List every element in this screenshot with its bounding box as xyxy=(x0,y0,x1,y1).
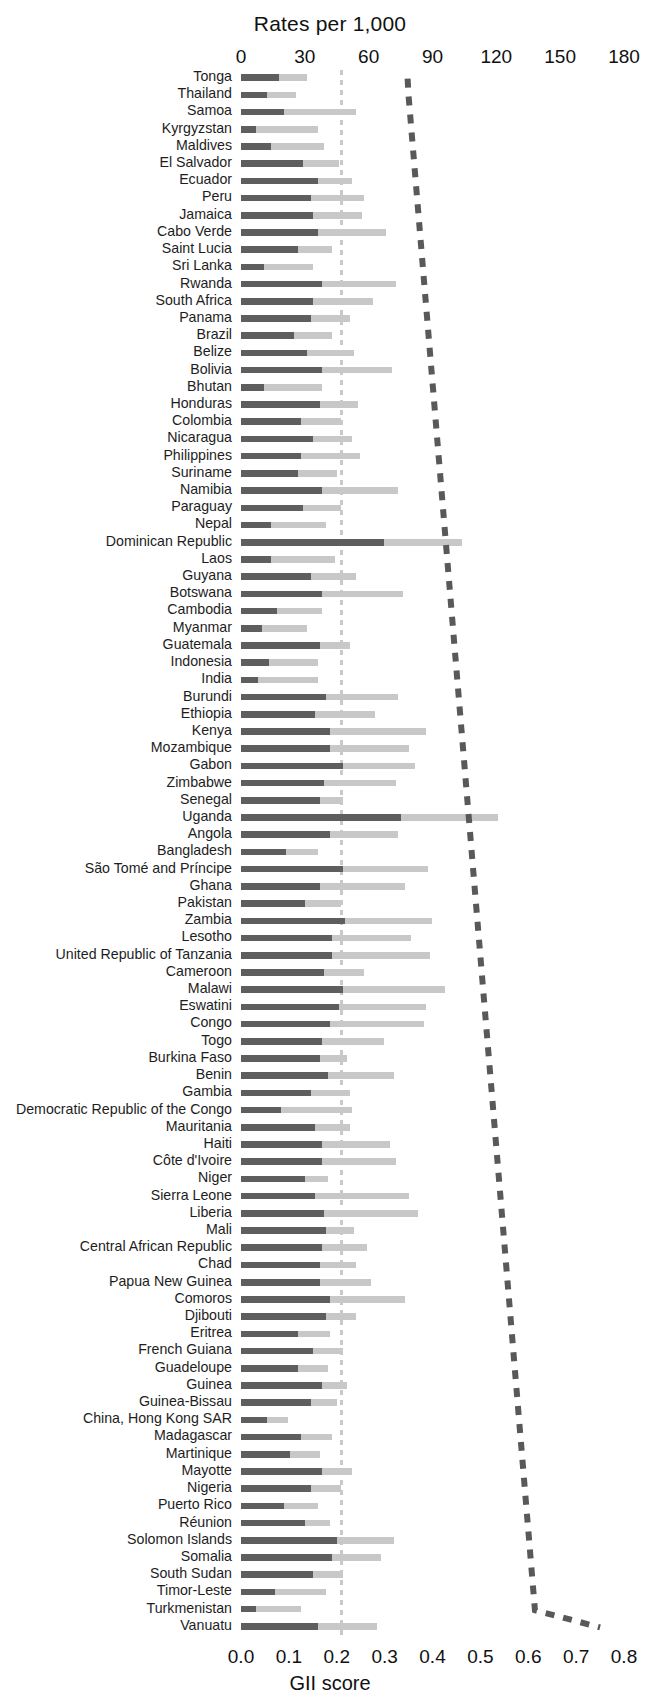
country-label: Mauritania xyxy=(166,1119,232,1134)
gii-score-dashed-line xyxy=(241,70,624,1636)
top-tick-label: 180 xyxy=(608,46,640,68)
country-label: Guyana xyxy=(182,568,232,583)
country-label: Burkina Faso xyxy=(148,1050,232,1065)
bottom-tick-label: 0.1 xyxy=(276,1646,302,1668)
country-label: Haiti xyxy=(204,1136,232,1151)
country-label: United Republic of Tanzania xyxy=(56,947,232,962)
bottom-tick-label: 0.5 xyxy=(467,1646,493,1668)
country-label: Peru xyxy=(202,189,232,204)
country-label: Pakistan xyxy=(178,895,232,910)
country-label: Puerto Rico xyxy=(158,1497,232,1512)
country-label: Rwanda xyxy=(180,276,232,291)
country-label: Comoros xyxy=(174,1291,232,1306)
country-label: Cameroon xyxy=(166,964,232,979)
country-label: Sri Lanka xyxy=(172,258,232,273)
country-label: Turkmenistan xyxy=(147,1601,232,1616)
country-label: Réunion xyxy=(179,1515,232,1530)
country-label: Eritrea xyxy=(190,1325,232,1340)
country-label: Guinea-Bissau xyxy=(139,1394,232,1409)
country-label: Cambodia xyxy=(167,602,232,617)
country-label: Martinique xyxy=(166,1446,232,1461)
country-label: Congo xyxy=(190,1015,232,1030)
top-tick-label: 120 xyxy=(480,46,512,68)
country-label: Mozambique xyxy=(151,740,232,755)
country-label: Mali xyxy=(206,1222,232,1237)
country-label: Guinea xyxy=(186,1377,232,1392)
country-label: Central African Republic xyxy=(80,1239,232,1254)
country-label: Ghana xyxy=(189,878,232,893)
country-label: Cabo Verde xyxy=(157,224,232,239)
country-label: Togo xyxy=(201,1033,232,1048)
bottom-tick-label: 0.8 xyxy=(611,1646,637,1668)
country-label: Bangladesh xyxy=(157,843,232,858)
top-axis-title: Rates per 1,000 xyxy=(0,12,660,36)
country-label: Saint Lucia xyxy=(162,241,232,256)
country-label: Panama xyxy=(179,310,232,325)
bottom-tick-label: 0.7 xyxy=(563,1646,589,1668)
country-label: Guadeloupe xyxy=(155,1360,232,1375)
country-label: Namibia xyxy=(180,482,232,497)
country-label: Papua New Guinea xyxy=(109,1274,232,1289)
country-label: Democratic Republic of the Congo xyxy=(16,1102,232,1117)
country-label: Uganda xyxy=(182,809,232,824)
country-label: Botswana xyxy=(170,585,232,600)
top-tick-label: 90 xyxy=(422,46,443,68)
country-label: Angola xyxy=(188,826,232,841)
top-tick-label: 150 xyxy=(544,46,576,68)
country-label: Côte d'Ivoire xyxy=(153,1153,232,1168)
country-label: Dominican Republic xyxy=(106,534,232,549)
country-label: Somalia xyxy=(181,1549,232,1564)
country-label: Malawi xyxy=(188,981,232,996)
top-tick-label: 0 xyxy=(236,46,247,68)
country-label: Mayotte xyxy=(182,1463,232,1478)
country-label: Niger xyxy=(198,1170,232,1185)
country-label: Colombia xyxy=(172,413,232,428)
country-label: Bhutan xyxy=(187,379,232,394)
country-label: Suriname xyxy=(171,465,232,480)
chart-container: Rates per 1,000 0306090120150180 TongaTh… xyxy=(0,0,660,1704)
bottom-tick-label: 0.3 xyxy=(371,1646,397,1668)
bottom-tick-label: 0.4 xyxy=(419,1646,445,1668)
country-label: Timor-Leste xyxy=(157,1583,232,1598)
country-label: Bolivia xyxy=(190,362,232,377)
plot-area: TongaThailandSamoaKyrgyzstanMaldivesEl S… xyxy=(241,70,624,1636)
country-label: China, Hong Kong SAR xyxy=(83,1411,232,1426)
country-label: Solomon Islands xyxy=(127,1532,232,1547)
country-label: South Sudan xyxy=(150,1566,232,1581)
country-label: Senegal xyxy=(180,792,232,807)
country-label: Liberia xyxy=(189,1205,232,1220)
country-label: India xyxy=(201,671,232,686)
country-label: Eswatini xyxy=(179,998,232,1013)
top-axis-ticks: 0306090120150180 xyxy=(0,46,660,68)
country-label: São Tomé and Príncipe xyxy=(85,861,232,876)
country-label: Guatemala xyxy=(163,637,232,652)
country-label: Sierra Leone xyxy=(151,1188,232,1203)
country-label: Burundi xyxy=(183,689,232,704)
country-label: Kenya xyxy=(192,723,232,738)
country-label: Djibouti xyxy=(185,1308,232,1323)
bottom-tick-label: 0.0 xyxy=(228,1646,254,1668)
country-label: Gabon xyxy=(189,757,232,772)
country-label: South Africa xyxy=(156,293,233,308)
country-label: Madagascar xyxy=(154,1428,232,1443)
country-label: Benin xyxy=(196,1067,232,1082)
country-label: Zambia xyxy=(185,912,232,927)
country-label: Chad xyxy=(198,1256,232,1271)
country-label: Ecuador xyxy=(179,172,232,187)
country-label: Belize xyxy=(193,344,232,359)
bottom-tick-label: 0.2 xyxy=(324,1646,350,1668)
top-tick-label: 30 xyxy=(294,46,315,68)
country-label: Tonga xyxy=(193,69,232,84)
country-label: Brazil xyxy=(197,327,232,342)
country-label: El Salvador xyxy=(159,155,232,170)
bottom-axis-title: GII score xyxy=(0,1672,660,1695)
country-label: Indonesia xyxy=(170,654,232,669)
country-label: Myanmar xyxy=(173,620,232,635)
country-label: Honduras xyxy=(170,396,232,411)
country-label: Samoa xyxy=(187,103,232,118)
bottom-axis-ticks: 0.00.10.20.30.40.50.60.70.8 xyxy=(0,1646,660,1668)
country-label: Paraguay xyxy=(171,499,232,514)
top-tick-label: 60 xyxy=(358,46,379,68)
country-label: Jamaica xyxy=(179,207,232,222)
country-label: Zimbabwe xyxy=(167,775,232,790)
